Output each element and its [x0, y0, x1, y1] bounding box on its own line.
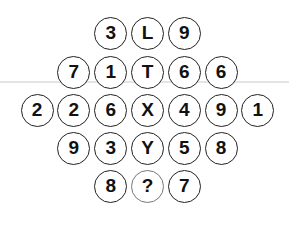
puzzle-cell: 4: [168, 94, 201, 127]
puzzle-cell: 1: [94, 56, 127, 89]
puzzle-cell: X: [131, 94, 164, 127]
puzzle-cell: 6: [168, 56, 201, 89]
puzzle-cell: 8: [94, 170, 127, 203]
puzzle-cell: 6: [94, 94, 127, 127]
unknown-cell: ?: [131, 170, 164, 203]
puzzle-cell: 3: [94, 17, 127, 50]
puzzle-cell: 8: [205, 132, 238, 165]
puzzle-cell: 6: [205, 56, 238, 89]
puzzle-cell: Y: [131, 132, 164, 165]
puzzle-cell: 7: [168, 170, 201, 203]
puzzle-cell: 2: [21, 94, 54, 127]
puzzle-cell: 9: [168, 17, 201, 50]
puzzle-cell: T: [131, 56, 164, 89]
puzzle-cell: 9: [205, 94, 238, 127]
puzzle-cell: 2: [57, 94, 90, 127]
puzzle-cell: 7: [57, 56, 90, 89]
puzzle-cell: 1: [241, 94, 274, 127]
puzzle-cell: 5: [168, 132, 201, 165]
puzzle-cell: L: [131, 17, 164, 50]
puzzle-cell: 9: [57, 132, 90, 165]
puzzle-cell: 3: [94, 132, 127, 165]
